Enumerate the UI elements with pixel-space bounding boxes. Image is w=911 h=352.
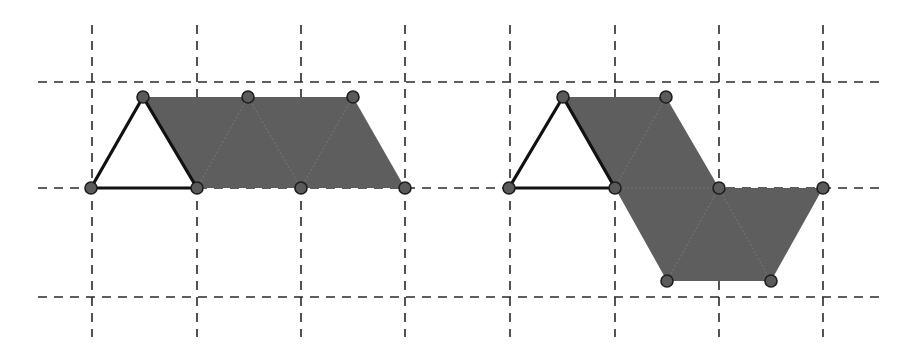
vertex-dot-icon xyxy=(661,275,673,287)
vertex-dot-icon xyxy=(503,182,515,194)
tessellation-diagram xyxy=(0,0,911,352)
vertex-dot-icon xyxy=(765,275,777,287)
vertex-dot-icon xyxy=(85,182,97,194)
vertex-dot-icon xyxy=(242,91,254,103)
vertex-dot-icon xyxy=(295,182,307,194)
left-figure xyxy=(85,91,411,194)
vertex-dot-icon xyxy=(399,182,411,194)
vertex-dot-icon xyxy=(713,182,725,194)
vertex-dot-icon xyxy=(137,91,149,103)
vertex-dot-icon xyxy=(817,182,829,194)
vertex-dot-icon xyxy=(609,182,621,194)
vertex-dot-icon xyxy=(347,91,359,103)
vertex-dot-icon xyxy=(660,91,672,103)
vertex-dot-icon xyxy=(191,182,203,194)
right-figure xyxy=(503,91,829,287)
vertex-dot-icon xyxy=(557,91,569,103)
